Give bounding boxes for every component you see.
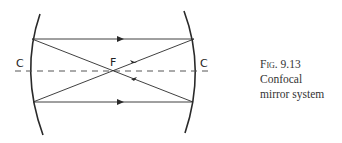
- label-focus: F: [110, 56, 116, 69]
- arrow-icon: [117, 36, 124, 42]
- caption-line1: Confocal: [260, 73, 302, 85]
- label-left-center: C: [16, 57, 24, 70]
- caption-line2: mirror system: [260, 87, 342, 102]
- label-right-center: C: [200, 57, 208, 70]
- right-mirror: [184, 11, 195, 133]
- figure-number: Fig. 9.13: [260, 58, 301, 70]
- figure-caption: Fig. 9.13 Confocal mirror system: [260, 57, 342, 102]
- arrow-icon: [117, 99, 124, 105]
- arrow-icon: [131, 77, 137, 81]
- left-mirror: [31, 14, 43, 135]
